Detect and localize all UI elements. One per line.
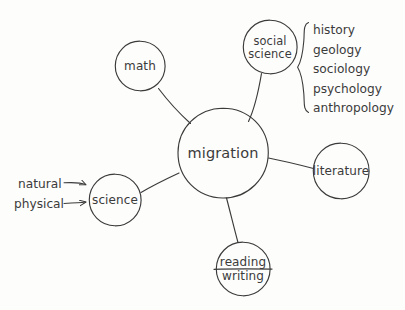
spoke-center-to-math (159, 89, 191, 124)
node-circle-migration[interactable] (178, 108, 268, 198)
node-circle-social-science[interactable] (243, 20, 297, 74)
brace-item-geology: geology (313, 43, 361, 57)
side-note-physical: physical (14, 197, 64, 211)
concept-map-canvas: migration math social science literature… (0, 0, 405, 310)
brace-item-sociology: sociology (313, 62, 370, 76)
brace-social-science (298, 23, 309, 113)
brace-item-anthropology: anthropology (313, 101, 394, 115)
spoke-center-to-literature (269, 158, 314, 169)
arrow-physical-to-science (64, 202, 86, 203)
spoke-center-to-social-science (249, 74, 262, 122)
node-circle-science[interactable] (89, 174, 141, 226)
brace-item-history: history (313, 23, 355, 37)
node-circle-reading-writing[interactable] (214, 242, 272, 296)
brace-item-psychology: psychology (313, 82, 382, 96)
side-note-natural: natural (18, 177, 62, 191)
spoke-center-to-reading-writing (227, 198, 239, 243)
spoke-center-to-science (141, 173, 179, 193)
node-circle-literature[interactable] (313, 143, 369, 199)
arrow-natural-to-science (64, 183, 86, 185)
node-circle-math[interactable] (115, 41, 165, 91)
